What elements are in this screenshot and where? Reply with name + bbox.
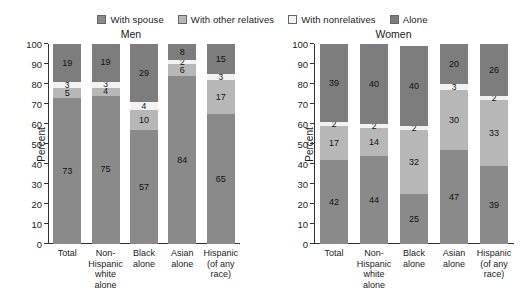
stacked-bar[interactable]: 735319 xyxy=(53,44,81,244)
bar-segment-value: 3 xyxy=(452,83,457,92)
bar-segment[interactable]: 4 xyxy=(130,102,158,110)
bar-segment[interactable]: 44 xyxy=(360,156,388,244)
bar-column[interactable]: 4414240 xyxy=(356,44,392,244)
bar-segment-value: 19 xyxy=(101,58,111,67)
bar-segment[interactable]: 19 xyxy=(53,44,81,82)
y-axis-tick-label: 10 xyxy=(297,219,308,229)
bar-segment[interactable]: 2 xyxy=(168,60,196,64)
bar-segment[interactable]: 25 xyxy=(400,194,428,244)
y-axis-tick-label: 80 xyxy=(31,79,42,89)
bar-segment[interactable]: 2 xyxy=(360,124,388,128)
bar-column[interactable]: 735319 xyxy=(50,44,85,244)
stacked-bar[interactable]: 2532240 xyxy=(400,44,428,244)
y-axis-tick-label: 30 xyxy=(31,179,42,189)
stacked-bar[interactable]: 4217239 xyxy=(320,44,348,244)
bar-segment[interactable]: 39 xyxy=(320,44,348,122)
x-axis-label: Total xyxy=(316,244,352,290)
legend-item: Alone xyxy=(390,14,428,25)
bar-segment[interactable]: 3 xyxy=(440,84,468,90)
bar-segment-value: 32 xyxy=(409,158,419,167)
x-axis-label: Black alone xyxy=(396,244,432,290)
x-axis-label: Asian alone xyxy=(436,244,472,290)
bar-segment-value: 3 xyxy=(218,73,223,82)
bar-segment[interactable]: 19 xyxy=(92,44,120,82)
bar-segment[interactable]: 8 xyxy=(168,44,196,60)
bar-segment-value: 30 xyxy=(449,116,459,125)
y-axis-tick-label: 100 xyxy=(26,39,42,49)
y-axis-tick-label: 100 xyxy=(292,39,308,49)
bar-segment-value: 5 xyxy=(65,89,70,98)
stacked-bar[interactable]: 6517315 xyxy=(207,44,235,244)
bar-segment[interactable]: 10 xyxy=(130,110,158,130)
bar-segment[interactable]: 40 xyxy=(400,46,428,126)
bar-segment[interactable]: 29 xyxy=(130,44,158,102)
bar-segment[interactable]: 17 xyxy=(207,80,235,114)
stacked-bar[interactable]: 4730320 xyxy=(440,44,468,244)
y-axis-tick-label: 40 xyxy=(297,159,308,169)
x-axis-label: Hispanic (of any race) xyxy=(476,244,512,290)
stacked-bar[interactable]: 754319 xyxy=(92,44,120,244)
bar-segment[interactable]: 2 xyxy=(320,122,348,126)
bar-segment[interactable]: 30 xyxy=(440,90,468,150)
x-axis-labels-women: TotalNon- Hispanic white aloneBlack alon… xyxy=(314,244,514,290)
y-axis-tick-label: 70 xyxy=(31,99,42,109)
bar-segment-value: 57 xyxy=(139,183,149,192)
bars-men: 7353197543195710429846286517315 xyxy=(48,44,240,244)
bar-segment-value: 15 xyxy=(216,55,226,64)
bar-segment-value: 73 xyxy=(62,167,72,176)
bar-segment[interactable]: 40 xyxy=(360,44,388,124)
bar-segment[interactable]: 39 xyxy=(480,166,508,244)
bar-segment[interactable]: 75 xyxy=(92,96,120,244)
bar-column[interactable]: 4730320 xyxy=(436,44,472,244)
bar-segment[interactable]: 73 xyxy=(53,98,81,244)
bar-column[interactable]: 3933226 xyxy=(476,44,512,244)
bar-segment-value: 17 xyxy=(329,139,339,148)
bar-segment[interactable]: 47 xyxy=(440,150,468,244)
stacked-bar[interactable]: 5710429 xyxy=(130,44,158,244)
x-axis-labels-men: TotalNon- Hispanic white aloneBlack alon… xyxy=(48,244,240,290)
chart-panel-men: Men Percent 0102030405060708090100 73531… xyxy=(0,28,262,307)
bar-segment[interactable]: 42 xyxy=(320,160,348,244)
bar-segment[interactable]: 57 xyxy=(130,130,158,244)
bar-segment[interactable]: 15 xyxy=(207,44,235,74)
bar-segment[interactable]: 20 xyxy=(440,44,468,84)
bar-segment[interactable]: 2 xyxy=(400,126,428,130)
y-axis-tick-label: 70 xyxy=(297,99,308,109)
stacked-bar[interactable]: 84628 xyxy=(168,44,196,244)
legend-item-label: With spouse xyxy=(110,14,163,25)
bar-segment[interactable]: 17 xyxy=(320,126,348,160)
plot-area-men: Percent 0102030405060708090100 735319754… xyxy=(48,44,240,244)
legend-item-label: With nonrelatives xyxy=(301,14,376,25)
bar-column[interactable]: 5710429 xyxy=(127,44,162,244)
bar-segment[interactable]: 32 xyxy=(400,130,428,194)
bar-segment[interactable]: 14 xyxy=(360,128,388,156)
bar-segment[interactable]: 3 xyxy=(92,82,120,88)
bar-segment-value: 39 xyxy=(329,79,339,88)
bars-women: 42172394414240253224047303203933226 xyxy=(314,44,514,244)
bar-segment-value: 3 xyxy=(103,80,108,89)
bar-column[interactable]: 4217239 xyxy=(316,44,352,244)
bar-segment-value: 4 xyxy=(142,102,147,111)
stacked-bar[interactable]: 4414240 xyxy=(360,44,388,244)
bar-segment[interactable]: 65 xyxy=(207,114,235,244)
bar-segment[interactable]: 26 xyxy=(480,44,508,96)
bar-column[interactable]: 6517315 xyxy=(203,44,238,244)
bar-column[interactable]: 754319 xyxy=(88,44,123,244)
bar-segment-value: 39 xyxy=(489,201,499,210)
y-axis-tick-label: 90 xyxy=(31,59,42,69)
bar-segment-value: 42 xyxy=(329,198,339,207)
y-axis-tick-label: 10 xyxy=(31,219,42,229)
x-axis-label: Total xyxy=(50,244,85,290)
bar-segment[interactable]: 33 xyxy=(480,100,508,166)
bar-column[interactable]: 84628 xyxy=(165,44,200,244)
bar-segment-value: 8 xyxy=(180,48,185,57)
bar-segment[interactable]: 2 xyxy=(480,96,508,100)
stacked-bar[interactable]: 3933226 xyxy=(480,44,508,244)
bar-segment[interactable]: 84 xyxy=(168,76,196,244)
bar-segment[interactable]: 3 xyxy=(53,82,81,88)
bar-column[interactable]: 2532240 xyxy=(396,44,432,244)
bar-segment-value: 29 xyxy=(139,69,149,78)
bar-segment-value: 20 xyxy=(449,60,459,69)
bar-segment[interactable]: 3 xyxy=(207,74,235,80)
bar-segment-value: 40 xyxy=(369,80,379,89)
